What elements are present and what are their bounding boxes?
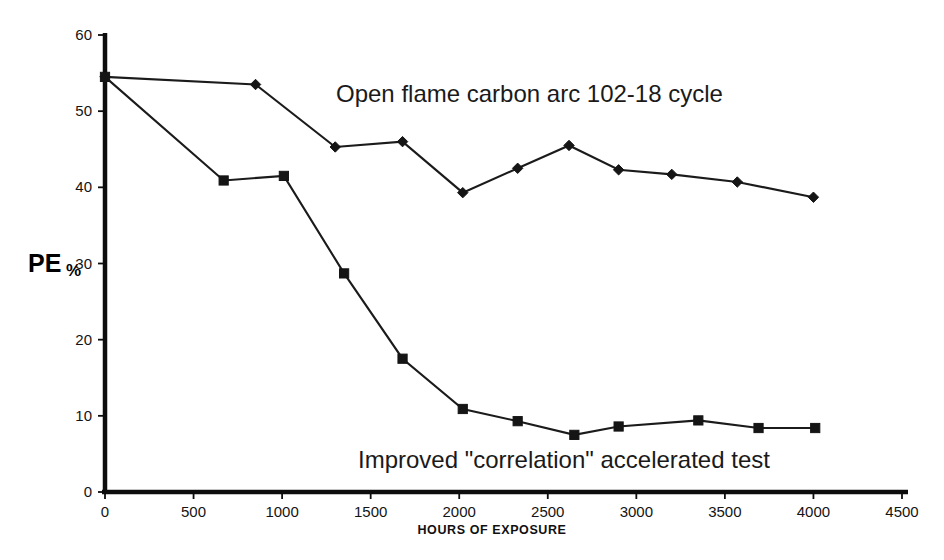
series-lower xyxy=(100,72,819,439)
x-tick-label: 4500 xyxy=(885,503,918,520)
data-point-marker xyxy=(564,140,574,150)
data-point-marker xyxy=(279,171,288,180)
data-point-marker xyxy=(219,176,228,185)
x-axis-title: HOURS OF EXPOSURE xyxy=(417,523,566,537)
x-tick-label: 3500 xyxy=(708,503,741,520)
data-point-marker xyxy=(613,165,623,175)
data-point-marker xyxy=(614,422,623,431)
data-point-marker xyxy=(811,423,820,432)
chart-container: 0102030405060 05001000150020002500300035… xyxy=(0,0,944,560)
y-tick-label: 10 xyxy=(75,407,92,424)
x-tick-label: 500 xyxy=(181,503,206,520)
data-point-marker xyxy=(808,192,818,202)
data-point-marker xyxy=(513,417,522,426)
x-tick-label-group: 050010001500200025003000350040004500 xyxy=(101,503,919,520)
x-tick-label: 3000 xyxy=(620,503,653,520)
y-axis-title-percent-sign: % xyxy=(66,261,81,280)
x-tick-label: 4000 xyxy=(797,503,830,520)
data-point-marker xyxy=(458,404,467,413)
y-tick-label: 40 xyxy=(75,178,92,195)
data-point-marker xyxy=(570,430,579,439)
x-tick-label: 1000 xyxy=(265,503,298,520)
x-tick-label: 2500 xyxy=(531,503,564,520)
x-tick-label: 2000 xyxy=(443,503,476,520)
upper-series-annotation: Open flame carbon arc 102-18 cycle xyxy=(336,80,723,107)
x-tick-label: 0 xyxy=(101,503,109,520)
x-tick-label: 1500 xyxy=(354,503,387,520)
data-point-marker xyxy=(694,416,703,425)
data-point-marker xyxy=(732,177,742,187)
data-point-marker xyxy=(667,169,677,179)
data-point-marker xyxy=(100,72,109,81)
data-point-marker xyxy=(340,269,349,278)
data-point-marker xyxy=(512,163,522,173)
y-tick-label: 60 xyxy=(75,26,92,43)
series-line xyxy=(105,77,815,435)
y-tick-label: 50 xyxy=(75,102,92,119)
data-series-group xyxy=(100,72,820,440)
lower-series-annotation: Improved "correlation" accelerated test xyxy=(358,446,770,473)
y-tick-label: 20 xyxy=(75,331,92,348)
y-axis-title: PE xyxy=(28,249,61,277)
line-chart-plot: 0102030405060 05001000150020002500300035… xyxy=(0,0,944,560)
y-tick-label: 0 xyxy=(84,483,92,500)
data-point-marker xyxy=(398,354,407,363)
data-point-marker xyxy=(754,423,763,432)
